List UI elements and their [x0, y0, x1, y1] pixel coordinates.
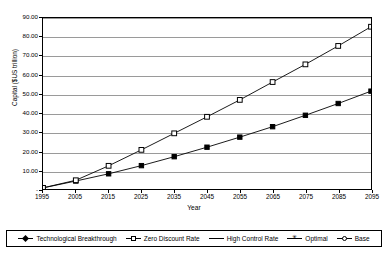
y-tick-label: 80.00 [8, 33, 38, 39]
series-marker [106, 172, 110, 176]
x-axis-title: Year [0, 204, 388, 211]
legend-item[interactable]: Zero Discount Rate [126, 235, 200, 242]
x-tick-mark [306, 190, 307, 193]
series-marker [106, 163, 111, 168]
x-tick-label: 2095 [357, 193, 387, 200]
legend-marker-icon [337, 235, 352, 242]
legend-marker-icon: ✳ [287, 235, 302, 242]
series-line [43, 27, 371, 188]
series-marker [238, 135, 242, 139]
data-series-layer [43, 18, 371, 189]
y-tick-label: 10.00 [8, 168, 38, 174]
series-marker [369, 24, 371, 29]
series-marker [43, 185, 45, 189]
y-tick-label: 20.00 [8, 149, 38, 155]
x-tick-label: 1995 [27, 193, 57, 200]
series-marker [369, 89, 371, 93]
x-tick-mark [339, 190, 340, 193]
series-marker [139, 163, 143, 167]
chart-container: Capital ($US trillion) 90.0080.0070.0060… [0, 0, 388, 253]
series-marker [205, 145, 209, 149]
legend-label: Optimal [305, 235, 327, 242]
legend-label: Zero Discount Rate [144, 235, 200, 242]
x-tick-mark [174, 190, 175, 193]
x-tick-mark [75, 190, 76, 193]
legend-marker-icon [126, 235, 141, 242]
x-tick-mark [42, 190, 43, 193]
x-tick-label: 2025 [126, 193, 156, 200]
plot-area [42, 17, 372, 190]
x-tick-mark [207, 190, 208, 193]
legend-marker-icon [209, 235, 224, 242]
legend-label: Technological Breakthrough [36, 235, 116, 242]
series-marker [237, 98, 242, 103]
series-marker [336, 101, 340, 105]
legend-item[interactable]: Base [337, 235, 370, 242]
y-tick-label: 70.00 [8, 52, 38, 58]
x-tick-label: 2035 [159, 193, 189, 200]
series-marker [172, 131, 177, 136]
legend-item[interactable]: Technological Breakthrough [18, 235, 116, 242]
series-marker [270, 125, 274, 129]
x-tick-mark [108, 190, 109, 193]
x-tick-label: 2085 [324, 193, 354, 200]
y-tick-label: 90.00 [8, 14, 38, 20]
x-tick-label: 2045 [192, 193, 222, 200]
legend-label: High Control Rate [227, 235, 279, 242]
x-tick-mark [141, 190, 142, 193]
series-marker [73, 178, 78, 183]
x-tick-mark [273, 190, 274, 193]
x-tick-mark [372, 190, 373, 193]
series-marker [336, 44, 341, 49]
legend-item[interactable]: ✳Optimal [287, 235, 327, 242]
y-tick-label: 50.00 [8, 91, 38, 97]
series-marker [205, 114, 210, 119]
y-tick-label: 60.00 [8, 72, 38, 78]
x-tick-label: 2005 [60, 193, 90, 200]
x-tick-label: 2075 [291, 193, 321, 200]
y-tick-label: 40.00 [8, 110, 38, 116]
x-tick-label: 2065 [258, 193, 288, 200]
chart-legend: Technological BreakthroughZero Discount … [6, 230, 382, 247]
series-marker [270, 80, 275, 85]
x-tick-mark [240, 190, 241, 193]
legend-marker-icon [18, 235, 33, 242]
legend-item[interactable]: High Control Rate [209, 235, 279, 242]
series-marker [303, 62, 308, 67]
x-tick-label: 2055 [225, 193, 255, 200]
series-marker [139, 147, 144, 152]
legend-label: Base [355, 235, 370, 242]
y-tick-label: 30.00 [8, 129, 38, 135]
series-marker [303, 113, 307, 117]
x-tick-label: 2015 [93, 193, 123, 200]
series-marker [172, 155, 176, 159]
